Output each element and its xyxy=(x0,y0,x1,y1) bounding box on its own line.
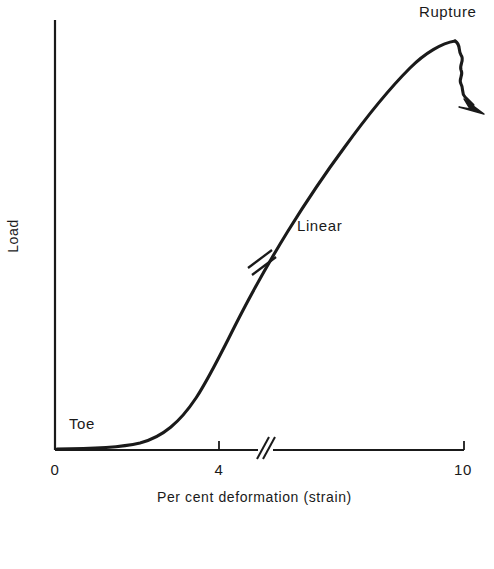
x-axis-break-icon xyxy=(257,437,275,459)
curve-break-icon xyxy=(248,250,276,275)
plot-canvas xyxy=(0,0,494,569)
annotation-linear: Linear xyxy=(297,217,342,234)
load-deformation-curve xyxy=(57,41,455,449)
rupture-wavy-line xyxy=(455,41,473,105)
rupture-arrowhead-icon xyxy=(459,99,484,114)
x-tick-label-10: 10 xyxy=(448,461,478,478)
x-tick-label-0: 0 xyxy=(44,461,66,478)
stress-strain-figure: Rupture Linear Toe Load Per cent deforma… xyxy=(0,0,494,569)
x-axis-title: Per cent deformation (strain) xyxy=(157,489,352,505)
x-tick-label-4: 4 xyxy=(208,461,230,478)
annotation-rupture: Rupture xyxy=(419,3,477,20)
y-axis-title: Load xyxy=(5,219,21,253)
annotation-toe: Toe xyxy=(69,415,95,432)
